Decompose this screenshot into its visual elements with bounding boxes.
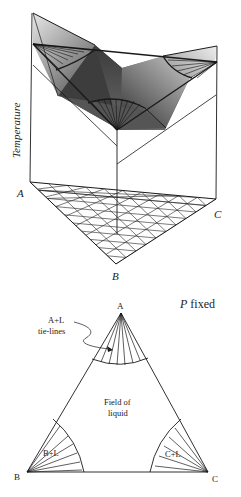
vertex-label-a: A (117, 301, 124, 311)
pressure-fixed-text: fixed (190, 297, 215, 311)
annotation-line-1: A+L (48, 315, 64, 325)
corner-label-c: C (214, 208, 222, 220)
region-label-c-l: C+L (165, 449, 181, 459)
field-label-line-1: Field of (104, 397, 131, 407)
corner-label-a: A (16, 187, 24, 199)
field-label-line-2: liquid (108, 408, 129, 418)
phase-diagram-figure: Temperature A C B A B (0, 0, 241, 497)
upper-prism-diagram: Temperature A C B (10, 13, 222, 282)
vertex-label-b: B (14, 472, 20, 482)
annotation-arrow (74, 322, 110, 349)
tie-lines-a (101, 313, 140, 365)
pressure-condition: Pfixed (179, 297, 215, 311)
temperature-axis-label: Temperature (10, 102, 22, 158)
ternary-liquidus-projection: A B C A+L tie-lines Field of liquid B+L … (14, 297, 218, 484)
vertex-label-c: C (212, 474, 218, 484)
pressure-symbol: P (179, 297, 188, 311)
base-composition-triangle (30, 182, 216, 264)
tie-lines-c (155, 428, 208, 472)
corner-label-b: B (112, 270, 119, 282)
annotation-line-2: tie-lines (38, 326, 65, 336)
region-label-b-l: B+L (43, 448, 59, 458)
